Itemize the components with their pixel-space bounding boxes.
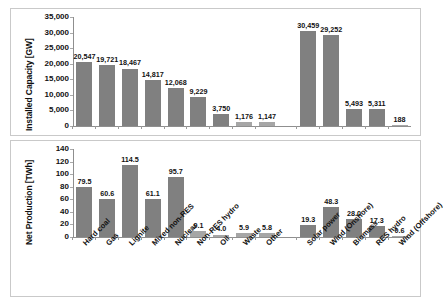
x-tick-mark — [232, 237, 233, 240]
bar — [76, 62, 92, 126]
bar — [300, 31, 316, 126]
bar-value-label: 3,750 — [204, 105, 238, 113]
y-axis-title-top: Installed Capacity [GW] — [24, 38, 34, 131]
bar-value-label: 79.5 — [67, 178, 101, 186]
y-tick-label: 140 — [25, 145, 69, 153]
y-axis-line — [73, 17, 74, 126]
x-tick-mark — [164, 126, 165, 129]
y-tick-label: 40 — [25, 208, 69, 216]
x-tick-mark — [72, 237, 73, 240]
y-tick-label: 20 — [25, 220, 69, 228]
y-axis-line — [73, 149, 74, 237]
bar-value-label: 61.1 — [136, 190, 170, 198]
x-tick-mark — [118, 126, 119, 129]
plot-area-top: 20,54719,72118,46714,81712,0689,2293,750… — [73, 17, 411, 126]
y-tick-label: 100 — [25, 170, 69, 178]
bar — [392, 125, 408, 126]
x-tick-mark — [186, 126, 187, 129]
x-tick-mark — [296, 126, 297, 129]
y-tick-label: 0 — [25, 233, 69, 241]
y-tick-label: 10,000 — [25, 91, 69, 99]
bar-value-label: 9,229 — [181, 88, 215, 96]
y-tick-label: 20,000 — [25, 60, 69, 68]
x-tick-mark — [209, 126, 210, 129]
y-tick-label: 0 — [25, 122, 69, 130]
x-tick-mark — [255, 126, 256, 129]
bar-value-label: 48.3 — [314, 198, 348, 206]
y-tick-label: 25,000 — [25, 44, 69, 52]
y-tick-label: 35,000 — [25, 13, 69, 21]
chart-panel-net-production: Net Production [TWh] 140120100806040200 … — [10, 140, 421, 297]
bar-value-label: 19.3 — [291, 216, 325, 224]
bar-value-label: 29,252 — [314, 26, 348, 34]
bar — [122, 165, 138, 237]
x-axis-line — [73, 126, 411, 127]
bar — [346, 109, 362, 126]
x-tick-mark — [95, 126, 96, 129]
x-tick-mark — [72, 126, 73, 129]
bar — [99, 65, 115, 126]
x-tick-mark — [388, 126, 389, 129]
y-tick-label: 5,000 — [25, 106, 69, 114]
bar-value-label: 5,311 — [360, 100, 394, 108]
bar-value-label: 18,467 — [113, 59, 147, 67]
bar-value-label: 95.7 — [159, 168, 193, 176]
bar — [323, 35, 339, 126]
bar — [259, 122, 275, 126]
x-tick-mark — [342, 126, 343, 129]
y-tick-label: 30,000 — [25, 29, 69, 37]
bar-value-label: 60.6 — [90, 190, 124, 198]
bar-value-label: 114.5 — [113, 156, 147, 164]
x-tick-mark — [232, 126, 233, 129]
chart-panel-installed-capacity: Installed Capacity [GW] 35,00030,00025,0… — [10, 8, 421, 136]
x-tick-mark — [141, 126, 142, 129]
plot-area-bottom: 79.560.6114.561.195.79.14.05.95.819.348.… — [73, 149, 411, 237]
x-tick-mark — [365, 126, 366, 129]
y-tick-label: 15,000 — [25, 75, 69, 83]
y-tick-label: 60 — [25, 195, 69, 203]
bar-value-label: 12,068 — [159, 79, 193, 87]
y-tick-label: 120 — [25, 158, 69, 166]
y-tick-label: 80 — [25, 183, 69, 191]
x-tick-mark — [319, 126, 320, 129]
bar-value-label: 1,147 — [250, 113, 284, 121]
bar — [236, 122, 252, 126]
x-tick-mark — [296, 237, 297, 240]
bar-value-label: 188 — [383, 116, 417, 124]
